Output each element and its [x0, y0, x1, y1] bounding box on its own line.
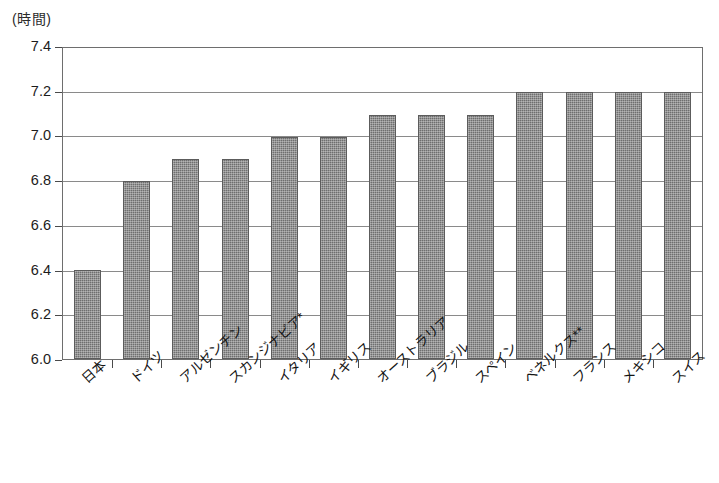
bar-chart: (時間) 7.47.27.06.86.66.46.26.0 日本ドイツアルゼンチ…: [0, 0, 719, 483]
x-tick-mark: [112, 360, 113, 368]
x-axis: 日本ドイツアルゼンチンスカンジナビア*イタリアイギリスオーストラリアブラジルスペ…: [0, 0, 719, 483]
x-tick-label: イギリス: [322, 337, 375, 387]
x-tick-label: メキシコ: [616, 337, 669, 387]
x-tick-label: スイス: [666, 345, 709, 386]
x-tick-label: 日本: [76, 354, 109, 387]
x-tick-label: スペイン: [469, 337, 521, 387]
